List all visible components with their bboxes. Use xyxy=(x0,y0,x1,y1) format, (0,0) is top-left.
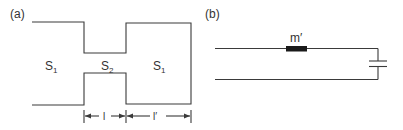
panel-a: (a) S 1 S 2 S 1 l xyxy=(10,7,191,123)
dim-label-l-prime: l′ xyxy=(153,111,157,122)
region-label-s1-right: S 1 xyxy=(153,59,166,75)
arrow-left-icon xyxy=(85,114,91,119)
svg-text:1: 1 xyxy=(161,66,166,75)
dim-label-l: l xyxy=(103,111,105,122)
arrow-right-icon xyxy=(119,114,125,119)
svg-text:S: S xyxy=(153,59,161,73)
dimension-lines: l l′ xyxy=(84,110,191,123)
inductor-icon xyxy=(286,46,307,52)
diagram-canvas: (a) S 1 S 2 S 1 l xyxy=(0,0,403,130)
arrow-left-icon xyxy=(127,114,133,119)
duct-upper-wall xyxy=(32,22,191,105)
panel-b-label: (b) xyxy=(205,7,220,21)
panel-b: (b) m′ xyxy=(205,7,387,80)
svg-text:S: S xyxy=(45,59,53,73)
svg-text:2: 2 xyxy=(109,66,114,75)
svg-text:1: 1 xyxy=(53,66,58,75)
inductor-label: m′ xyxy=(290,31,303,45)
arrow-right-icon xyxy=(184,114,190,119)
region-label-s2: S 2 xyxy=(101,59,114,75)
svg-text:S: S xyxy=(101,59,109,73)
panel-a-label: (a) xyxy=(10,7,25,21)
region-label-s1-left: S 1 xyxy=(45,59,58,75)
